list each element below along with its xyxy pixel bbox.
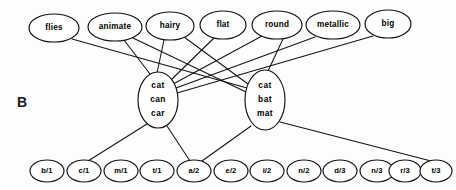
phoneme-node-c1[interactable]: c/1 xyxy=(67,160,101,182)
node-label: e/2 xyxy=(226,166,237,175)
phoneme-node-b1[interactable]: b/1 xyxy=(30,160,64,182)
semantic-node-animate[interactable]: animate xyxy=(88,13,142,41)
node-label: flies xyxy=(45,23,63,32)
phoneme-slot-nodes: b/1c/1m/1t/1a/2e/2i/2n/2d/3n/3r/3t/3 xyxy=(30,160,452,182)
panel-letter-b: B xyxy=(17,94,27,110)
semantic-node-hairy[interactable]: hairy xyxy=(146,12,194,40)
diagram-canvas: fliesanimatehairyflatroundmetallicbig ca… xyxy=(0,0,456,190)
edge-cat-can-car-to-a2 xyxy=(167,126,190,161)
node-label: m/1 xyxy=(114,166,128,175)
node-label: big xyxy=(382,19,395,28)
node-label: t/1 xyxy=(152,166,162,175)
node-label: a/2 xyxy=(189,166,200,175)
edge-cat-bat-mat-to-a2 xyxy=(202,126,251,161)
phoneme-node-m1[interactable]: m/1 xyxy=(104,160,138,182)
node-label: round xyxy=(265,20,289,29)
node-label: animate xyxy=(99,22,132,31)
word-form-nodes: catcancarcatbatmat xyxy=(138,70,285,130)
node-label-line: mat xyxy=(257,108,273,118)
node-label: t/3 xyxy=(431,166,440,175)
node-label: flat xyxy=(216,20,229,29)
phoneme-node-n2[interactable]: n/2 xyxy=(287,160,321,182)
semantic-feature-nodes: fliesanimatehairyflatroundmetallicbig xyxy=(29,10,411,42)
edge-round-to-cat-can-car xyxy=(175,36,262,83)
semantic-node-metallic[interactable]: metallic xyxy=(306,11,360,39)
phoneme-node-t3[interactable]: t/3 xyxy=(420,160,452,182)
node-label: b/1 xyxy=(41,166,53,175)
word-node-cat-bat-mat[interactable]: catbatmat xyxy=(245,70,285,130)
node-label: i/2 xyxy=(263,166,272,175)
node-label: metallic xyxy=(317,20,349,29)
word-node-cat-can-car[interactable]: catcancar xyxy=(138,72,178,128)
node-label-line: cat xyxy=(258,80,271,90)
semantic-node-flies[interactable]: flies xyxy=(29,14,79,42)
node-label-line: car xyxy=(151,108,165,118)
edge-hairy-to-cat-can-car xyxy=(157,40,164,73)
node-label-line: can xyxy=(150,94,166,104)
semantic-node-big[interactable]: big xyxy=(365,10,411,38)
node-label: hairy xyxy=(160,21,181,30)
node-label: c/1 xyxy=(79,166,91,175)
edge-cat-bat-mat-to-t3 xyxy=(280,122,431,161)
semantic-to-word-edges xyxy=(72,36,373,93)
node-label: d/3 xyxy=(334,166,345,175)
phoneme-node-i2[interactable]: i/2 xyxy=(250,160,284,182)
node-label: n/2 xyxy=(298,166,309,175)
node-label-line: bat xyxy=(258,94,272,104)
edge-cat-can-car-to-c1 xyxy=(88,124,147,161)
phoneme-node-d3[interactable]: d/3 xyxy=(323,160,357,182)
node-label: r/3 xyxy=(400,166,410,175)
node-label-line: cat xyxy=(151,80,164,90)
phoneme-node-r3[interactable]: r/3 xyxy=(389,160,421,182)
phoneme-node-a2[interactable]: a/2 xyxy=(177,160,211,182)
edge-animate-to-cat-can-car xyxy=(124,40,150,74)
network-diagram-panel-b: fliesanimatehairyflatroundmetallicbig ca… xyxy=(0,0,456,190)
semantic-node-round[interactable]: round xyxy=(252,11,302,39)
phoneme-node-t1[interactable]: t/1 xyxy=(140,160,174,182)
semantic-node-flat[interactable]: flat xyxy=(200,11,246,39)
phoneme-node-e2[interactable]: e/2 xyxy=(214,160,248,182)
node-label: n/3 xyxy=(371,166,382,175)
